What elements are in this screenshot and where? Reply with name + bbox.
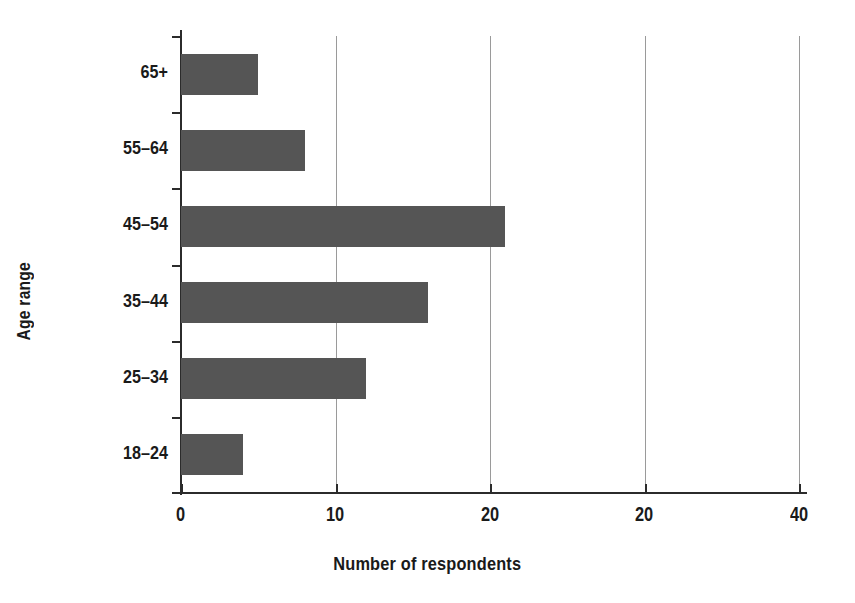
- x-tick-mark-0: [181, 484, 183, 494]
- y-axis-tick-labels: 18–2425–3435–4445–5455–6465+: [20, 36, 168, 493]
- y-tick-mark: [172, 341, 181, 343]
- x-tick-label-text: 20: [481, 503, 499, 526]
- bar-18-24: [181, 434, 243, 475]
- x-tick-label-text: 40: [790, 503, 808, 526]
- x-tick-label-4: 40: [764, 503, 834, 526]
- y-tick-label-65+: 65+: [49, 61, 168, 83]
- y-tick-mark: [172, 417, 181, 419]
- x-tick-label-2: 20: [455, 503, 525, 526]
- bar-55-64: [181, 130, 305, 171]
- bar-row: [181, 417, 243, 493]
- y-tick-label-55-64: 55–64: [49, 137, 168, 159]
- bar-row: [181, 112, 305, 188]
- x-tick-label-text: 0: [176, 503, 185, 526]
- bar-row: [181, 265, 428, 341]
- x-tick-mark-10: [336, 484, 338, 494]
- y-tick-mark-top: [172, 36, 181, 38]
- x-axis-title: Number of respondents: [0, 553, 855, 575]
- x-tick-label-text: 20: [635, 503, 653, 526]
- y-tick-label-25-34: 25–34: [49, 366, 168, 388]
- x-axis-title-label: Number of respondents: [334, 553, 522, 575]
- bar-35-44: [181, 282, 428, 323]
- x-tick-mark-40: [799, 484, 801, 494]
- x-tick-label-0: 0: [146, 503, 216, 526]
- bar-65+: [181, 54, 258, 95]
- gridline-30: [645, 36, 646, 493]
- y-tick-mark: [172, 112, 181, 114]
- y-tick-mark: [172, 188, 181, 190]
- x-tick-mark-20: [490, 484, 492, 494]
- y-tick-label-18-24: 18–24: [49, 442, 168, 464]
- x-tick-label-text: 10: [326, 503, 344, 526]
- x-tick-label-3: 20: [610, 503, 680, 526]
- bar-chart: Age range 18–2425–3435–4445–5455–6465+ 0…: [0, 0, 855, 603]
- x-tick-mark-30: [645, 484, 647, 494]
- bar-25-34: [181, 358, 366, 399]
- plot-area: [181, 36, 799, 493]
- gridline-20: [490, 36, 491, 493]
- bar-row: [181, 341, 366, 417]
- bar-row: [181, 188, 505, 264]
- y-tick-label-45-54: 45–54: [49, 213, 168, 235]
- bar-row: [181, 36, 258, 112]
- gridline-40: [799, 36, 800, 493]
- y-tick-label-35-44: 35–44: [49, 290, 168, 312]
- y-tick-mark: [172, 265, 181, 267]
- bar-45-54: [181, 206, 505, 247]
- x-tick-label-1: 10: [301, 503, 371, 526]
